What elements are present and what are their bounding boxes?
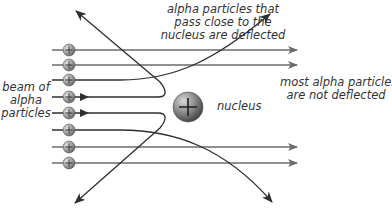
alpha-particle — [63, 44, 75, 56]
alpha-particle — [63, 141, 75, 153]
label-line: particles — [0, 107, 52, 120]
alpha-particle — [63, 107, 75, 119]
alpha-particle — [63, 59, 75, 71]
label-deflected: alpha particles that pass close to the n… — [148, 3, 298, 42]
direction-arrow-row-4 — [80, 93, 89, 101]
label-not-deflected: most alpha particles are not deflected — [280, 76, 392, 102]
beam-line-6-deflected — [52, 130, 272, 202]
label-line: nucleus are deflected — [148, 29, 298, 42]
direction-arrow-row-5 — [80, 109, 89, 117]
alpha-particles — [63, 44, 75, 169]
alpha-particle — [63, 157, 75, 169]
label-nucleus: nucleus — [217, 100, 261, 113]
alpha-particle — [63, 91, 75, 103]
label-beam: beam of alpha particles — [0, 81, 52, 120]
label-line: are not deflected — [280, 89, 392, 102]
alpha-particle — [63, 124, 75, 136]
alpha-particle — [63, 74, 75, 86]
nucleus — [173, 92, 203, 122]
